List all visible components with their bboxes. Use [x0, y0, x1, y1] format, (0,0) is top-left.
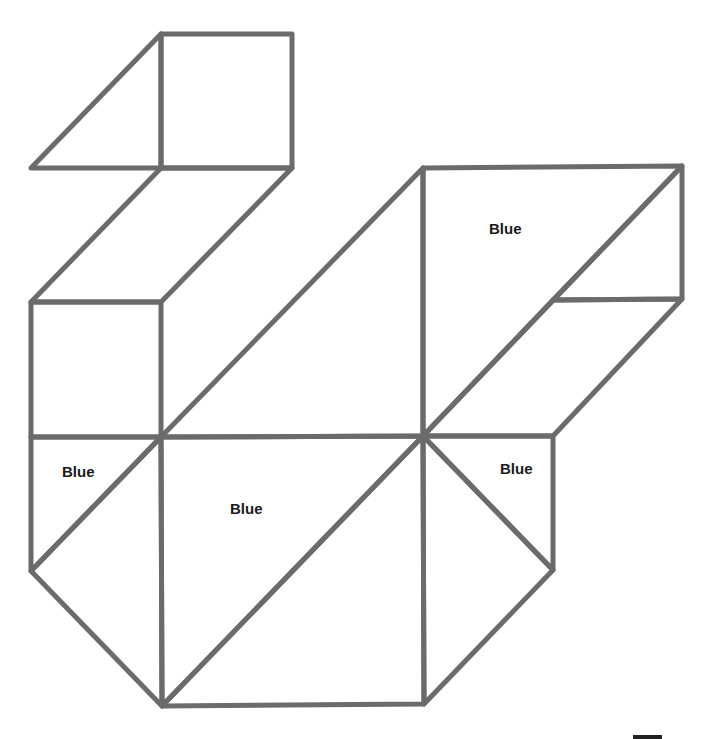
bottom-triangle [162, 436, 424, 706]
large-upper-triangle [161, 168, 423, 437]
top-square [161, 34, 292, 168]
corner-mark [633, 735, 662, 739]
label-top-right: Blue [489, 220, 522, 237]
tangram-diagram [0, 0, 705, 739]
label-left-small-triangle: Blue [62, 463, 95, 480]
left-square [31, 302, 161, 437]
label-right-small-triangle: Blue [500, 460, 533, 477]
label-center: Blue [230, 500, 263, 517]
right-parallelogram [423, 299, 682, 436]
left-lower-triangle [31, 437, 162, 706]
top-left-triangle [31, 34, 161, 168]
right-upper-small-triangle [553, 166, 682, 300]
right-lower-triangle [423, 436, 553, 704]
neck-parallelogram [31, 168, 292, 302]
